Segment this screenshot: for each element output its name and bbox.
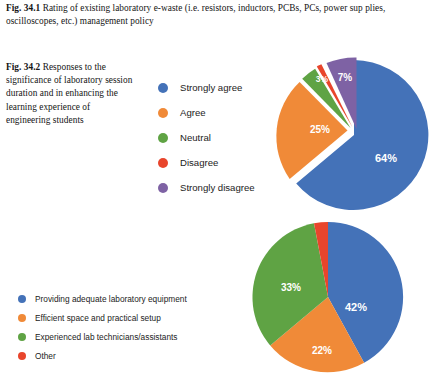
legend-swatch-green-icon	[18, 333, 26, 341]
legend-item-other[interactable]: Other	[18, 346, 187, 365]
legend-item-experienced-technicians[interactable]: Experienced lab technicians/assistants	[18, 327, 187, 346]
legend-label-providing-equipment: Providing adequate laboratory equipment	[35, 294, 187, 304]
legend-label-neutral: Neutral	[180, 132, 211, 143]
legend-label-efficient-space: Efficient space and practical setup	[35, 313, 161, 323]
figure-caption-34-1-line1: Rating of existing laboratory e-waste (i…	[43, 3, 363, 13]
pie-slice-label-33: 33%	[281, 282, 301, 293]
pie-chart-2-graphic: 42% 22% 33%	[248, 219, 416, 379]
legend-label-agree: Agree	[180, 107, 206, 118]
pie-slice-label-42: 42%	[345, 301, 367, 313]
pie-chart-2: Providing adequate laboratory equipment …	[0, 215, 429, 383]
pie-slice-label-64: 64%	[375, 152, 397, 164]
pie-chart-1: Strongly agree Agree Neutral Disagree St…	[0, 55, 429, 205]
legend-label-disagree: Disagree	[180, 157, 218, 168]
pie-slice-label-3: 3%	[316, 74, 329, 84]
pie-slice-label-7: 7%	[338, 72, 353, 83]
figure-caption-34-1: Fig. 34.1 Rating of existing laboratory …	[6, 2, 429, 28]
legend-swatch-purple-icon	[158, 183, 168, 193]
legend-swatch-blue-icon	[18, 295, 26, 303]
legend-item-strongly-disagree[interactable]: Strongly disagree	[158, 175, 255, 200]
legend-item-efficient-space[interactable]: Efficient space and practical setup	[18, 308, 187, 327]
legend-swatch-green-icon	[158, 133, 168, 143]
legend-swatch-red-icon	[158, 158, 168, 168]
legend-swatch-orange-icon	[158, 108, 168, 118]
legend-label-strongly-agree: Strongly agree	[180, 82, 242, 93]
legend-label-strongly-disagree: Strongly disagree	[180, 182, 255, 193]
legend-swatch-orange-icon	[18, 314, 26, 322]
pie-chart-1-graphic: 64% 25% 3% 7%	[262, 57, 429, 207]
pie-slice-label-25: 25%	[310, 124, 330, 135]
pie-chart-1-legend: Strongly agree Agree Neutral Disagree St…	[158, 75, 255, 200]
legend-label-experienced-technicians: Experienced lab technicians/assistants	[35, 332, 178, 342]
pie-chart-2-legend: Providing adequate laboratory equipment …	[18, 289, 187, 365]
legend-item-neutral[interactable]: Neutral	[158, 125, 255, 150]
pie-slice-label-22: 22%	[312, 345, 332, 356]
legend-item-providing-equipment[interactable]: Providing adequate laboratory equipment	[18, 289, 187, 308]
legend-swatch-blue-icon	[158, 83, 168, 93]
legend-label-other: Other	[35, 351, 56, 361]
legend-swatch-red-icon	[18, 352, 26, 360]
figure-number-34-1: Fig. 34.1	[6, 3, 40, 13]
legend-item-strongly-agree[interactable]: Strongly agree	[158, 75, 255, 100]
legend-item-agree[interactable]: Agree	[158, 100, 255, 125]
legend-item-disagree[interactable]: Disagree	[158, 150, 255, 175]
